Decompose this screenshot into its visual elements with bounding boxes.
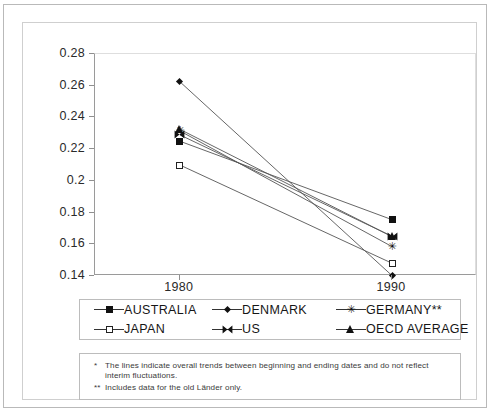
marker-bowtie-icon	[222, 325, 233, 334]
marker-diamond-icon	[223, 306, 230, 313]
series-line	[180, 82, 392, 276]
legend-label: JAPAN	[124, 322, 165, 336]
legend-item-oecd-average[interactable]: OECD AVERAGE	[332, 322, 460, 336]
footnote: **Includes data for the old Länder only.	[94, 383, 450, 393]
marker-asterisk-icon: ✳	[388, 242, 397, 251]
y-axis-tick-label: 0.26	[45, 78, 85, 92]
series-line	[180, 165, 392, 263]
marker-triangle-icon	[175, 125, 183, 133]
legend-item-us[interactable]: US	[208, 322, 332, 336]
footnote-marker: *	[94, 361, 105, 382]
y-axis-tick-label: 0.24	[45, 109, 85, 123]
legend-symbol	[212, 303, 242, 317]
x-axis-tick-mark	[391, 275, 392, 280]
footnote: *The lines indicate overall trends betwe…	[94, 361, 450, 382]
legend-item-denmark[interactable]: DENMARK	[208, 303, 332, 317]
series-line	[180, 131, 392, 247]
marker-asterisk-icon: ✳	[347, 305, 356, 314]
marker-triangle-icon	[388, 232, 396, 240]
y-axis-tick-label: 0.16	[45, 236, 85, 250]
legend-label: AUSTRALIA	[124, 303, 197, 317]
legend-label: US	[242, 322, 260, 336]
figure-root: 0.140.160.180.20.220.240.260.28 ✳✳ 19801…	[0, 0, 491, 414]
x-axis-tick-label: 1990	[377, 280, 406, 294]
y-axis: 0.140.160.180.20.220.240.260.28	[52, 47, 94, 281]
series-line	[180, 135, 392, 236]
y-axis-tick-label: 0.14	[45, 268, 85, 282]
marker-square-open-icon	[176, 162, 183, 169]
legend-label: DENMARK	[242, 303, 307, 317]
legend-symbol: ✳	[336, 303, 366, 317]
x-axis-tick-mark	[179, 275, 180, 280]
marker-diamond-icon	[389, 272, 396, 279]
legend-label: OECD AVERAGE	[366, 322, 469, 336]
y-axis-tick-label: 0.18	[45, 205, 85, 219]
y-axis-tick-label: 0.28	[45, 46, 85, 60]
legend-row: AUSTRALIADENMARK✳GERMANY**	[80, 300, 460, 320]
legend-symbol	[336, 322, 366, 336]
footnote-marker: **	[94, 383, 105, 393]
chart-plot-panel: 0.140.160.180.20.220.240.260.28 ✳✳ 19801…	[52, 47, 482, 293]
y-axis-tick-label: 0.22	[45, 141, 85, 155]
marker-square-filled-icon	[389, 216, 396, 223]
legend-row: JAPANUSOECD AVERAGE	[80, 320, 460, 340]
series-lines-layer	[95, 54, 475, 274]
series-line	[180, 129, 392, 236]
marker-square-filled-icon	[106, 306, 113, 313]
marker-triangle-icon	[346, 325, 354, 333]
legend-symbol	[94, 322, 124, 336]
y-axis-tick-label: 0.2	[45, 173, 85, 187]
x-axis-tick-label: 1980	[164, 280, 193, 294]
marker-square-open-icon	[389, 260, 396, 267]
series-line	[180, 141, 392, 220]
marker-square-open-icon	[106, 326, 113, 333]
chart-legend: AUSTRALIADENMARK✳GERMANY**JAPANUSOECD AV…	[79, 299, 461, 340]
legend-item-australia[interactable]: AUSTRALIA	[80, 303, 208, 317]
cut-off-title-sliver	[80, 0, 330, 3]
inner-figure-border: 0.140.160.180.20.220.240.260.28 ✳✳ 19801…	[22, 22, 477, 400]
footnote-text: Includes data for the old Länder only.	[105, 383, 450, 393]
legend-item-japan[interactable]: JAPAN	[80, 322, 208, 336]
legend-symbol	[94, 303, 124, 317]
plot-area: ✳✳	[94, 53, 476, 275]
legend-item-germany[interactable]: ✳GERMANY**	[332, 303, 460, 317]
legend-symbol	[212, 322, 242, 336]
y-axis-tick-mark	[89, 275, 94, 276]
chart-footnotes: *The lines indicate overall trends betwe…	[79, 353, 461, 400]
legend-label: GERMANY**	[366, 303, 442, 317]
footnote-text: The lines indicate overall trends betwee…	[105, 361, 450, 382]
outer-figure-border: 0.140.160.180.20.220.240.260.28 ✳✳ 19801…	[3, 4, 487, 408]
